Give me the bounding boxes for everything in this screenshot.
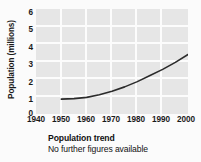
x-tick-label: 1940: [23, 115, 49, 124]
caption-title: Population trend: [48, 133, 198, 144]
y-tick-label: 5: [19, 26, 33, 34]
population-trend-chart: Population (millions) 6 5 4 3 2 1 0 1940…: [0, 0, 201, 162]
y-tick-label: 6: [19, 9, 33, 17]
x-tick-label: 1970: [98, 115, 124, 124]
plot-area: [36, 9, 188, 114]
chart-caption: Population trend No further figures avai…: [48, 133, 198, 155]
y-tick-label: 2: [19, 79, 33, 87]
x-tick-label: 1960: [73, 115, 99, 124]
x-tick-label: 1990: [148, 115, 174, 124]
population-curve: [36, 9, 188, 114]
x-tick-label: 2000: [173, 115, 199, 124]
caption-subtitle: No further figures available: [48, 144, 198, 155]
x-tick-label: 1980: [123, 115, 149, 124]
y-tick-label: 4: [19, 44, 33, 52]
x-tick-label: 1950: [48, 115, 74, 124]
y-tick-label: 1: [19, 96, 33, 104]
y-tick-label: 3: [19, 61, 33, 69]
y-axis-tick-labels: 6 5 4 3 2 1 0: [12, 0, 33, 162]
x-axis-tick-labels: 1940 1950 1960 1970 1980 1990 2000: [0, 115, 201, 127]
